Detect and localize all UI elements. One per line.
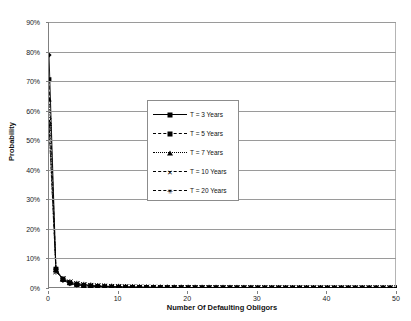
chart-legend: T = 3 YearsT = 5 YearsT = 7 Years✕T = 10… bbox=[147, 100, 239, 201]
x-tick-label: 40 bbox=[322, 295, 330, 302]
star-marker-icon: ✳ bbox=[167, 187, 173, 194]
y-tick-mark bbox=[46, 288, 49, 289]
data-point-marker bbox=[311, 285, 317, 288]
data-point-marker bbox=[67, 279, 73, 285]
legend-sample-diamond-icon bbox=[153, 109, 187, 121]
data-point-marker bbox=[81, 282, 87, 288]
data-point-marker bbox=[255, 285, 261, 288]
data-point-marker bbox=[325, 285, 331, 288]
y-tick-label: 90% bbox=[0, 19, 40, 26]
data-point-marker bbox=[366, 285, 372, 288]
legend-item-t-5-years[interactable]: T = 5 Years bbox=[148, 124, 238, 143]
legend-sample-triangle-icon bbox=[153, 147, 187, 159]
x-tick-mark bbox=[118, 291, 119, 294]
y-tick-mark bbox=[46, 140, 49, 141]
data-point-marker bbox=[60, 276, 66, 282]
legend-item-t-3-years[interactable]: T = 3 Years bbox=[148, 105, 238, 124]
data-point-marker bbox=[297, 285, 303, 288]
y-axis-title: Probability bbox=[7, 107, 16, 177]
y-tick-label: 0% bbox=[0, 285, 40, 292]
probability-chart: 0%10%20%30%40%50%60%70%80%90% Probabilit… bbox=[0, 0, 411, 321]
data-point-marker bbox=[387, 285, 393, 288]
gridline bbox=[49, 258, 396, 259]
data-point-marker bbox=[49, 123, 52, 129]
data-point-marker bbox=[248, 285, 254, 288]
data-point-marker bbox=[290, 285, 296, 288]
data-point-marker bbox=[339, 285, 345, 288]
legend-sample-square-icon bbox=[153, 128, 187, 140]
y-tick-mark bbox=[46, 199, 49, 200]
data-point-marker bbox=[359, 285, 365, 288]
y-tick-label: 10% bbox=[0, 255, 40, 262]
data-point-marker bbox=[95, 283, 101, 288]
data-point-marker bbox=[53, 269, 59, 275]
y-tick-mark bbox=[46, 170, 49, 171]
data-point-marker bbox=[352, 285, 358, 288]
x-tick-label: 10 bbox=[114, 295, 122, 302]
data-point-marker bbox=[380, 285, 386, 288]
x-tick-mark bbox=[326, 291, 327, 294]
square-marker-icon bbox=[168, 131, 173, 136]
y-tick-label: 70% bbox=[0, 78, 40, 85]
legend-item-t-10-years[interactable]: ✕T = 10 Years bbox=[148, 162, 238, 181]
legend-label: T = 20 Years bbox=[187, 187, 227, 194]
legend-label: T = 10 Years bbox=[187, 168, 227, 175]
y-tick-mark bbox=[46, 258, 49, 259]
data-point-marker bbox=[283, 285, 289, 288]
legend-sample-star-icon: ✳ bbox=[153, 185, 187, 197]
data-point-marker bbox=[304, 285, 310, 288]
gridline bbox=[49, 81, 396, 82]
y-tick-mark bbox=[46, 52, 49, 53]
x-tick-label: 30 bbox=[253, 295, 261, 302]
gridline bbox=[49, 52, 396, 53]
data-point-marker bbox=[262, 285, 268, 288]
y-tick-label: 80% bbox=[0, 48, 40, 55]
data-point-marker bbox=[74, 281, 80, 287]
y-tick-mark bbox=[46, 22, 49, 23]
legend-label: T = 7 Years bbox=[187, 149, 223, 156]
x-tick-mark bbox=[396, 291, 397, 294]
diamond-marker-icon bbox=[168, 112, 173, 117]
y-tick-label: 30% bbox=[0, 196, 40, 203]
gridline bbox=[49, 22, 396, 23]
legend-item-t-20-years[interactable]: ✳T = 20 Years bbox=[148, 181, 238, 200]
x-tick-mark bbox=[187, 291, 188, 294]
y-tick-mark bbox=[46, 111, 49, 112]
data-point-marker bbox=[332, 285, 338, 288]
x-marker-icon: ✕ bbox=[167, 168, 173, 175]
legend-item-t-7-years[interactable]: T = 7 Years bbox=[148, 143, 238, 162]
x-tick-label: 20 bbox=[183, 295, 191, 302]
x-tick-label: 0 bbox=[46, 295, 50, 302]
data-point-marker bbox=[49, 53, 52, 58]
data-point-marker bbox=[269, 285, 275, 288]
data-point-marker bbox=[318, 285, 324, 288]
gridline bbox=[49, 229, 396, 230]
x-axis-title: Number Of Defaulting Obligors bbox=[48, 303, 396, 312]
data-point-marker bbox=[373, 285, 379, 288]
x-tick-mark bbox=[48, 291, 49, 294]
x-tick-label: 50 bbox=[392, 295, 400, 302]
legend-label: T = 3 Years bbox=[187, 111, 223, 118]
y-tick-mark bbox=[46, 229, 49, 230]
legend-sample-x-icon: ✕ bbox=[153, 166, 187, 178]
triangle-marker-icon bbox=[167, 150, 173, 155]
y-tick-label: 20% bbox=[0, 225, 40, 232]
plot-frame-right bbox=[395, 22, 396, 287]
data-point-marker bbox=[345, 285, 351, 288]
legend-label: T = 5 Years bbox=[187, 130, 223, 137]
x-tick-mark bbox=[257, 291, 258, 294]
data-point-marker bbox=[88, 283, 94, 288]
y-tick-mark bbox=[46, 81, 49, 82]
data-point-marker bbox=[276, 285, 282, 288]
data-point-marker bbox=[241, 285, 247, 288]
